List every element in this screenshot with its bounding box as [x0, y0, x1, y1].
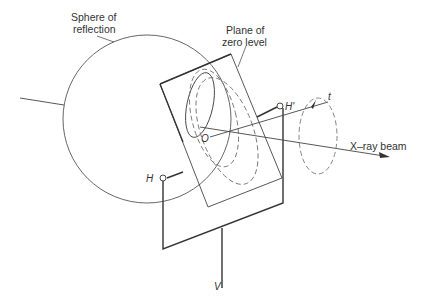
v-label: V	[214, 281, 222, 292]
sphere-label-line1: Sphere of	[71, 11, 117, 23]
plane-left-edge-bold	[160, 84, 183, 142]
plane-label-line1: Plane of	[226, 24, 265, 36]
beam-label: X–ray beam	[350, 140, 407, 152]
goniometer-frame	[163, 108, 283, 249]
origin-label: O	[201, 133, 209, 144]
hinge-h	[160, 175, 166, 181]
sphere-label-leader	[97, 36, 114, 42]
t-label: t	[328, 91, 332, 102]
dashed-locus-inner	[181, 64, 248, 172]
hinge-h-prime	[277, 103, 283, 109]
rotation-direction-arrow-icon	[311, 100, 316, 109]
dashed-rotation-ellipse	[299, 98, 337, 174]
frame-arm-h-prime	[257, 107, 277, 117]
incoming-beam-line	[20, 98, 64, 105]
x-ray-beam-arrowhead	[379, 152, 390, 158]
h-label: H	[146, 173, 154, 184]
frame-arm-h	[167, 172, 183, 178]
h-prime-label: H'	[285, 101, 295, 112]
plane-label-leader	[238, 46, 246, 67]
diagram-canvas: Sphere of reflection Plane of zero level…	[0, 0, 422, 304]
sphere-label-line2: reflection	[73, 23, 116, 35]
plane-label-line2: zero level	[222, 36, 267, 48]
